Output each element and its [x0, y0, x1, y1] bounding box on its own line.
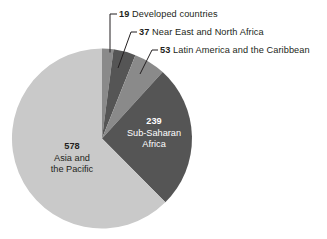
callout-value: 37 — [139, 27, 149, 37]
slice-value: 239 — [118, 116, 190, 128]
callout-value: 53 — [160, 45, 170, 55]
slice-label-line-1: Asia and — [26, 153, 118, 165]
leader-line-developed-countries — [110, 14, 117, 53]
pie-chart: 19 Developed countries 37 Near East and … — [0, 0, 327, 239]
callout-label: Near East and North Africa — [152, 27, 264, 37]
slice-label-line-1: Sub-Saharan — [118, 128, 190, 140]
callout-near-east-and-north-africa: 37 Near East and North Africa — [139, 27, 264, 38]
slice-label-line-2: Africa — [118, 139, 190, 151]
callout-label: Latin America and the Caribbean — [173, 45, 310, 55]
callout-developed-countries: 19 Developed countries — [119, 9, 218, 20]
callout-label: Developed countries — [132, 9, 218, 19]
callout-latin-america-and-the-caribbean: 53 Latin America and the Caribbean — [160, 45, 310, 56]
slice-value: 578 — [26, 141, 118, 153]
slice-label-asia-and-the-pacific: 578 Asia and the Pacific — [26, 141, 118, 176]
callout-value: 19 — [119, 9, 129, 19]
slice-label-line-2: the Pacific — [26, 164, 118, 176]
slice-label-sub-saharan-africa: 239 Sub-Saharan Africa — [118, 116, 190, 151]
